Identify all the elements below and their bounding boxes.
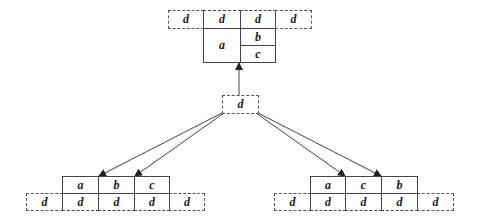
top-dashed-cell: d [168,10,204,29]
bottom-right-dashed-cell: d [417,193,454,211]
top-dashed-cell: d [240,10,276,29]
bottom-right-dashed-cell: d [310,193,346,211]
bottom-left-solid-cell: c [134,176,170,194]
arrow-to-bottom-right-b [258,113,381,176]
top-dashed-cell: d [203,10,241,29]
bottom-left-dashed-cell: d [134,193,170,211]
top-dashed-cell: d [275,10,312,29]
arrow-to-bottom-right-c [256,113,345,176]
bottom-right-dashed-cell: d [345,193,382,211]
bottom-left-dashed-cell: d [62,193,99,211]
bottom-left-dashed-cell: d [169,193,205,211]
arrow-to-bottom-left-b [99,113,222,176]
top-solid-cell-a: a [203,28,241,63]
bottom-left-solid-cell: b [98,176,135,194]
arrow-to-bottom-left-c [135,113,224,176]
bottom-left-dashed-cell: d [98,193,135,211]
bottom-right-solid-cell: c [345,176,382,194]
bottom-left-solid-cell: a [62,176,99,194]
bottom-left-dashed-cell: d [26,193,63,211]
bottom-right-dashed-cell: d [274,193,311,211]
middle-node: d [222,95,259,114]
bottom-right-dashed-cell: d [381,193,418,211]
bottom-right-solid-cell: b [381,176,418,194]
top-solid-cell-c: c [240,45,276,63]
top-solid-cell-b: b [240,28,276,46]
bottom-right-solid-cell: a [310,176,346,194]
